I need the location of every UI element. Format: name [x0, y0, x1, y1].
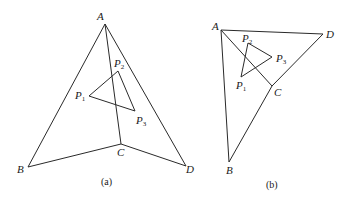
label-b-C: C	[274, 86, 282, 98]
label-b-P2: P2	[241, 32, 253, 46]
figure-a: A B C D P1 P2 P3 (a)	[17, 10, 194, 188]
label-a-D: D	[185, 163, 194, 175]
caption-a: (a)	[101, 176, 112, 188]
edge-b-AB	[221, 30, 229, 162]
label-a-B: B	[17, 163, 24, 175]
label-a-P1: P1	[74, 89, 86, 103]
edge-a-AC	[105, 24, 121, 144]
label-a-P2: P2	[113, 57, 125, 71]
edge-a-CD	[121, 144, 186, 166]
edge-a-BC	[28, 144, 121, 167]
label-a-P3: P3	[135, 114, 147, 128]
diagram-canvas: A B C D P1 P2 P3 (a) A B C D P1 P2 P3 (b…	[0, 0, 355, 202]
label-b-B: B	[226, 164, 233, 176]
label-b-A: A	[211, 20, 219, 32]
edge-a-AB	[28, 24, 105, 167]
label-a-C: C	[117, 146, 125, 158]
label-b-P3: P3	[275, 52, 287, 66]
label-a-A: A	[96, 10, 104, 22]
label-b-D: D	[325, 28, 334, 40]
edge-b-AD	[221, 30, 323, 34]
figure-b: A B C D P1 P2 P3 (b)	[211, 20, 334, 191]
triangle-b-P1P2P3	[241, 43, 272, 77]
caption-b: (b)	[266, 179, 278, 191]
edge-b-BC	[229, 86, 272, 162]
label-b-P1: P1	[235, 79, 247, 93]
